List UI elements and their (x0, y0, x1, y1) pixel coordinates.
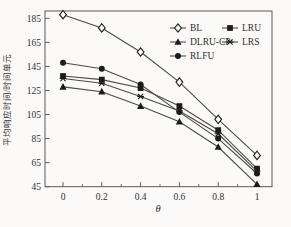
y-tick-label: 65 (32, 158, 42, 168)
asterisk-marker (137, 94, 144, 99)
y-tick-label: 145 (27, 62, 42, 72)
filled-circle-marker (254, 170, 260, 176)
y-tick-label: 125 (27, 86, 42, 96)
chart-canvas: 18516514512510585654500.20.40.60.81 BLDL… (0, 0, 291, 227)
filled-circle-marker (138, 81, 144, 87)
legend-item-rlfu: RLFU (170, 51, 214, 61)
legend-label: BL (190, 23, 202, 33)
open-diamond-marker (60, 10, 67, 18)
series-line (63, 87, 257, 184)
series-bl (60, 10, 261, 159)
open-diamond-marker (137, 48, 144, 56)
x-tick-label: 0.8 (212, 192, 224, 202)
series-line (63, 78, 257, 171)
y-tick-label: 45 (32, 182, 42, 192)
legend: BLDLRU-CPRLFULRULRS (170, 23, 261, 61)
x-tick-label: 0.4 (135, 192, 147, 202)
legend-item-bl: BL (170, 23, 202, 33)
legend-label: LRU (242, 23, 261, 33)
x-tick-label: 0 (61, 192, 66, 202)
plot-border (45, 11, 272, 187)
filled-triangle-marker (215, 143, 222, 150)
filled-square-marker (227, 25, 233, 31)
legend-item-lru: LRU (222, 23, 261, 33)
x-tick-label: 1 (255, 192, 260, 202)
chart-figure: 18516514512510585654500.20.40.60.81 BLDL… (0, 0, 291, 227)
filled-circle-marker (176, 109, 182, 115)
open-diamond-marker (98, 24, 105, 32)
series-lru (60, 73, 260, 171)
y-axis-title: 平均响应时间/时间单元 (2, 54, 12, 146)
y-tick-label: 85 (32, 134, 42, 144)
open-diamond-marker (175, 24, 182, 32)
legend-item-dlru-cp: DLRU-CP (170, 37, 231, 47)
filled-circle-marker (175, 53, 181, 59)
x-tick-label: 0.2 (96, 192, 108, 202)
filled-circle-marker (215, 136, 221, 142)
x-tick-label: 0.6 (173, 192, 185, 202)
y-tick-label: 185 (27, 14, 42, 24)
filled-triangle-marker (59, 83, 66, 90)
legend-label: LRS (242, 37, 259, 47)
filled-circle-marker (99, 66, 105, 72)
y-tick-label: 165 (27, 38, 42, 48)
series-line (63, 15, 257, 156)
x-axis-title: θ (155, 203, 160, 214)
filled-circle-marker (60, 60, 66, 66)
y-tick-label: 105 (27, 110, 42, 120)
legend-label: RLFU (190, 51, 214, 61)
